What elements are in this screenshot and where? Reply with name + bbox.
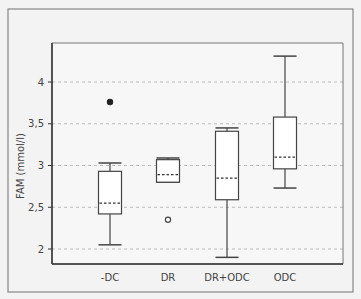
x-category-label: DR+ODC — [204, 272, 250, 283]
x-axis-labels: -DCDRDR+ODCODC — [101, 272, 296, 283]
x-category-label: DR — [161, 272, 176, 283]
y-axis-ticks: 22,533,54 — [28, 77, 52, 255]
y-tick-label: 3,5 — [28, 118, 44, 129]
y-axis-title: FAM (mmol/l) — [15, 133, 26, 199]
x-category-label: ODC — [274, 272, 297, 283]
outlier-point — [165, 217, 170, 222]
iqr-box — [274, 117, 297, 169]
iqr-box — [157, 160, 180, 183]
y-tick-label: 3 — [38, 160, 44, 171]
outlier-point — [107, 99, 113, 105]
box-plot-chart: 22,533,54 -DCDRDR+ODCODC FAM (mmol/l) — [0, 0, 361, 299]
y-tick-label: 4 — [38, 77, 44, 88]
y-tick-label: 2 — [38, 244, 44, 255]
iqr-box — [216, 131, 239, 199]
y-tick-label: 2,5 — [28, 202, 44, 213]
x-category-label: -DC — [101, 272, 119, 283]
plot-area — [52, 43, 343, 264]
iqr-box — [99, 171, 122, 214]
